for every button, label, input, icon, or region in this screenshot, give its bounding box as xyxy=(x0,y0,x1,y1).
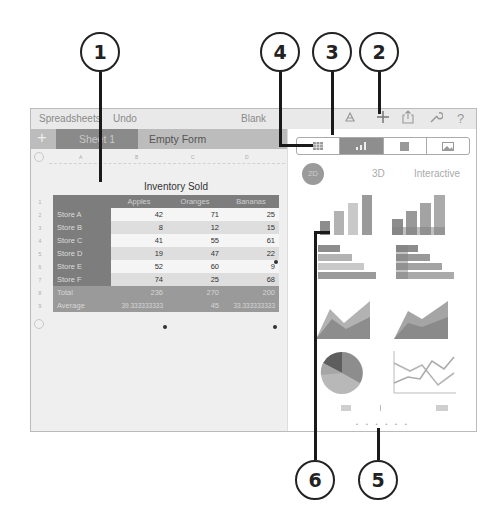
table-cell[interactable]: 270 xyxy=(167,286,223,299)
stacked-area-chart-thumbnail[interactable] xyxy=(388,295,458,343)
row-header-7[interactable]: 7 xyxy=(33,277,47,283)
table-cell[interactable]: 71 xyxy=(167,208,223,221)
row-header-5[interactable]: 5 xyxy=(33,251,47,257)
table-icon xyxy=(313,142,323,150)
select-all-handle[interactable] xyxy=(34,152,44,162)
undo-button[interactable]: Undo xyxy=(113,113,137,124)
shape-icon xyxy=(400,142,409,151)
row-label[interactable]: Store E xyxy=(53,260,111,273)
segment-shape[interactable] xyxy=(384,138,427,154)
add-sheet-button[interactable]: + xyxy=(31,129,53,149)
table-cell[interactable]: 39.333333333 xyxy=(111,299,167,312)
tab-interactive[interactable]: Interactive xyxy=(414,168,460,179)
callout-line-6 xyxy=(314,232,317,460)
table-cell[interactable]: 19 xyxy=(111,247,167,260)
table-cell[interactable]: 45 xyxy=(167,299,223,312)
help-icon[interactable]: ? xyxy=(457,111,464,126)
segment-media[interactable] xyxy=(427,138,469,154)
table-cell[interactable]: 61 xyxy=(223,234,279,247)
row-header-2[interactable]: 2 xyxy=(33,212,47,218)
area-chart-thumbnail[interactable] xyxy=(310,295,380,343)
chart-thumbnail-partial[interactable] xyxy=(436,405,448,411)
column-header-b[interactable]: B xyxy=(135,154,138,160)
tab-2d[interactable]: 2D xyxy=(302,163,324,185)
segment-chart[interactable] xyxy=(340,138,383,154)
row-header-6[interactable]: 6 xyxy=(33,264,47,270)
header-cell-oranges[interactable]: Oranges xyxy=(167,195,223,208)
table-cell[interactable]: 68 xyxy=(223,273,279,286)
chart-icon xyxy=(355,142,367,150)
row-label[interactable]: Store C xyxy=(53,234,111,247)
table-row: Store A 42 71 25 xyxy=(53,208,279,221)
table-cell[interactable]: 52 xyxy=(111,260,167,273)
table-cell[interactable]: 8 xyxy=(111,221,167,234)
header-cell-empty[interactable] xyxy=(53,195,111,208)
header-cell-bananas[interactable]: Bananas xyxy=(223,195,279,208)
pie-chart-thumbnail[interactable] xyxy=(310,349,380,397)
chart-style-tabs: 2D 3D Interactive xyxy=(288,163,477,185)
table-header-row: Apples Oranges Bananas xyxy=(53,195,279,208)
table-cell[interactable]: 33.333333333 xyxy=(223,299,279,312)
chart-thumbnail-partial[interactable] xyxy=(341,405,351,411)
table-cell[interactable]: 15 xyxy=(223,221,279,234)
inventory-table[interactable]: Apples Oranges Bananas Store A 42 71 25 … xyxy=(53,195,279,312)
header-cell-apples[interactable]: Apples xyxy=(111,195,167,208)
table-cell[interactable]: 42 xyxy=(111,208,167,221)
row-label[interactable]: Store D xyxy=(53,247,111,260)
row-label[interactable]: Store B xyxy=(53,221,111,234)
line-chart-thumbnail[interactable] xyxy=(388,349,458,397)
selection-handle[interactable] xyxy=(163,325,167,329)
table-cell[interactable]: 41 xyxy=(111,234,167,247)
selection-handle[interactable] xyxy=(273,325,277,329)
callout-5: 5 xyxy=(358,460,398,500)
tab-sheet-1[interactable]: Sheet 1 xyxy=(56,129,138,149)
callout-line-6-h xyxy=(314,231,330,234)
wrench-icon[interactable] xyxy=(429,110,443,127)
table-row: Store C 41 55 61 xyxy=(53,234,279,247)
callout-line-2 xyxy=(378,70,381,114)
tab-3d[interactable]: 3D xyxy=(372,168,385,179)
column-header-a[interactable]: A xyxy=(79,154,82,160)
spreadsheets-back-button[interactable]: Spreadsheets xyxy=(39,113,101,124)
row-label[interactable]: Total xyxy=(53,286,111,299)
callout-1: 1 xyxy=(80,32,120,72)
spreadsheet-canvas[interactable]: A B C D 1 2 3 4 5 6 7 8 9 Inventory Sold… xyxy=(31,149,287,432)
column-header-bar[interactable]: A B C D xyxy=(49,153,285,164)
tab-empty-form[interactable]: Empty Form xyxy=(149,129,206,149)
table-cell[interactable]: 22 xyxy=(223,247,279,260)
stacked-bar-chart-thumbnail[interactable] xyxy=(388,245,458,293)
table-cell[interactable]: 25 xyxy=(223,208,279,221)
table-cell[interactable]: 200 xyxy=(223,286,279,299)
table-cell[interactable]: 47 xyxy=(167,247,223,260)
table-cell[interactable]: 60 xyxy=(167,260,223,273)
selection-handle[interactable] xyxy=(274,260,278,264)
row-label[interactable]: Average xyxy=(53,299,111,312)
callout-line-4-h xyxy=(279,144,313,147)
column-header-d[interactable]: D xyxy=(245,154,249,160)
row-label[interactable]: Store F xyxy=(53,273,111,286)
table-footer-row: Total 236 270 200 xyxy=(53,286,279,299)
table-title[interactable]: Inventory Sold xyxy=(101,181,251,192)
table-cell[interactable]: 236 xyxy=(111,286,167,299)
add-row-handle[interactable] xyxy=(34,319,44,329)
table-cell[interactable]: 74 xyxy=(111,273,167,286)
bar-chart-thumbnail[interactable] xyxy=(310,245,380,293)
row-label[interactable]: Store A xyxy=(53,208,111,221)
column-header-c[interactable]: C xyxy=(191,154,195,160)
callout-2: 2 xyxy=(359,32,399,72)
stacked-column-chart-thumbnail[interactable] xyxy=(388,191,458,239)
row-header-4[interactable]: 4 xyxy=(33,238,47,244)
table-cell[interactable]: 12 xyxy=(167,221,223,234)
row-header-8[interactable]: 8 xyxy=(33,290,47,296)
table-cell[interactable]: 9 xyxy=(223,260,279,273)
document-title: Blank xyxy=(241,113,266,124)
table-cell[interactable]: 25 xyxy=(167,273,223,286)
row-header-3[interactable]: 3 xyxy=(33,225,47,231)
table-cell[interactable]: 55 xyxy=(167,234,223,247)
row-header-9[interactable]: 9 xyxy=(33,303,47,309)
row-header-1[interactable]: 1 xyxy=(33,199,47,205)
format-brush-icon[interactable] xyxy=(343,110,357,127)
callout-3: 3 xyxy=(312,32,352,72)
share-icon[interactable] xyxy=(402,110,414,127)
chart-thumbnail-partial[interactable] xyxy=(380,405,381,411)
